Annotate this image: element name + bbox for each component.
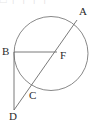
geometry-figure: □ ┌ ┐ ┌ ┐ A B F C D <box>0 0 100 123</box>
vertex-label-f: F <box>60 50 66 61</box>
vertex-label-c: C <box>29 90 36 101</box>
segment-ad-secant <box>14 20 77 110</box>
geometry-canvas <box>0 0 100 123</box>
vertex-label-a: A <box>79 6 87 17</box>
vertex-label-b: B <box>2 46 9 57</box>
vertex-label-d: D <box>9 111 17 122</box>
main-circle <box>14 17 88 91</box>
